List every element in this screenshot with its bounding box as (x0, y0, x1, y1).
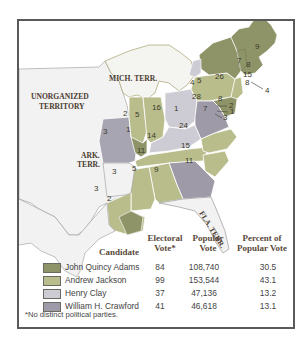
electoral-vote: 37 (149, 288, 171, 298)
legend-row-clay: Henry Clay 37 47,136 13.2 (43, 287, 293, 300)
percent-popular: 13.1 (247, 301, 289, 311)
percent-popular: 30.5 (247, 262, 289, 272)
electoral-vote: 99 (149, 275, 171, 285)
electoral-vote: 84 (149, 262, 171, 272)
legend-row-jackson: Andrew Jackson 99 153,544 43.1 (43, 274, 293, 287)
candidate-name: Andrew Jackson (65, 275, 126, 285)
results-legend: Candidate Electoral Vote* Popular Vote P… (19, 21, 293, 327)
legend-row-adams: John Quincy Adams 84 108,740 30.5 (43, 261, 293, 274)
header-percent-1: Percent of (231, 233, 293, 243)
header-popular-2: Vote (183, 243, 233, 253)
header-percent-2: Popular Vote (231, 243, 293, 253)
header-electoral-2: Vote* (143, 243, 187, 253)
popular-vote: 108,740 (179, 262, 229, 272)
candidate-name: John Quincy Adams (65, 262, 139, 272)
map-frame: MICH. TERR. UNORGANIZED TERRITORY ARK. T… (17, 19, 295, 329)
candidate-name: Henry Clay (65, 288, 106, 298)
percent-popular: 13.2 (247, 288, 289, 298)
swatch-adams (43, 263, 61, 273)
header-electoral-1: Electoral (143, 233, 187, 243)
popular-vote: 47,136 (179, 288, 229, 298)
footnote: *No distinct political parties. (25, 310, 118, 319)
popular-vote: 153,544 (179, 275, 229, 285)
swatch-jackson (43, 276, 61, 286)
electoral-vote: 41 (149, 301, 171, 311)
popular-vote: 46,618 (179, 301, 229, 311)
percent-popular: 43.1 (247, 275, 289, 285)
header-popular-1: Popular (183, 233, 233, 243)
swatch-clay (43, 289, 61, 299)
